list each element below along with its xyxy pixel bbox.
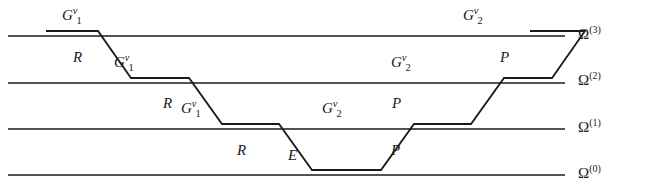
level-label-superscript: (1) [589, 117, 601, 128]
diagram-canvas [0, 0, 648, 194]
operator-subscript: 1 [77, 15, 82, 26]
multigrid-v-cycle-figure: Ω(3)Ω(2)Ω(1)Ω(0) Gν1Gν1Gν1EGν2Gν2Gν2 RRR… [0, 0, 648, 194]
transfer-label-prolong-1-2: P [392, 96, 401, 111]
transfer-label-restrict-2-1: R [163, 96, 172, 111]
grid-level-lines [8, 36, 565, 175]
operator-label-smooth-l3-down: Gν1 [62, 8, 82, 23]
operator-label-smooth-l3-up: Gν2 [463, 8, 483, 23]
operator-symbol: E [288, 147, 297, 163]
level-label-omega-3: Ω(3) [578, 27, 601, 42]
operator-subscript: 1 [196, 108, 201, 119]
operator-subscript: 2 [337, 108, 342, 119]
level-label-superscript: (2) [589, 70, 601, 81]
level-label-symbol: Ω [578, 165, 589, 181]
transfer-label-prolong-2-3: P [500, 50, 509, 65]
transfer-label-restrict-1-0: R [237, 143, 246, 158]
operator-label-smooth-l1-down: Gν1 [181, 101, 201, 116]
level-label-omega-2: Ω(2) [578, 73, 601, 88]
operator-symbol: G [62, 7, 73, 23]
operator-symbol: G [463, 7, 474, 23]
level-label-superscript: (0) [589, 163, 601, 174]
level-label-symbol: Ω [578, 119, 589, 135]
operator-label-smooth-l2-down: Gν1 [114, 55, 134, 70]
level-label-superscript: (3) [589, 24, 601, 35]
transfer-label-prolong-0-1: P [391, 143, 400, 158]
level-label-omega-1: Ω(1) [578, 120, 601, 135]
operator-symbol: G [181, 100, 192, 116]
operator-symbol: G [391, 54, 402, 70]
level-label-symbol: Ω [578, 72, 589, 88]
level-label-symbol: Ω [578, 26, 589, 42]
operator-label-coarse-solve: E [288, 148, 297, 163]
operator-symbol: G [114, 54, 125, 70]
operator-label-smooth-l1-up: Gν2 [322, 101, 342, 116]
operator-symbol: G [322, 100, 333, 116]
transfer-label-restrict-3-2: R [73, 50, 82, 65]
level-label-omega-0: Ω(0) [578, 166, 601, 181]
operator-subscript: 2 [478, 15, 483, 26]
operator-subscript: 2 [406, 62, 411, 73]
operator-label-smooth-l2-up: Gν2 [391, 55, 411, 70]
operator-subscript: 1 [129, 62, 134, 73]
